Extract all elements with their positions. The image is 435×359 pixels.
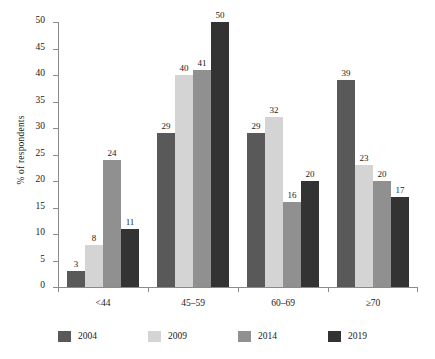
legend-item[interactable]: 2014 [238,331,328,342]
y-tick-label: 5 [40,254,45,264]
legend-item[interactable]: 2009 [148,331,238,342]
bar-group: 29321620 [247,22,319,287]
x-tick [328,287,329,292]
x-tick [148,287,149,292]
legend-label: 2019 [348,331,367,341]
legend-label: 2004 [78,331,97,341]
bar-value-label: 20 [378,169,387,179]
bar: 32 [265,117,283,287]
legend-item[interactable]: 2004 [58,331,148,342]
category-label: 60–69 [271,298,295,308]
y-axis-title-text: % of respondents [16,115,26,184]
category-label: <44 [96,298,111,308]
y-axis-line [58,22,59,287]
bar-group: 382411 [67,22,139,287]
y-tick: 50 [53,22,58,23]
bar: 8 [85,245,103,287]
bar-value-label: 3 [74,259,79,269]
bar: 20 [373,181,391,287]
legend-swatch [58,331,71,342]
bar-value-label: 11 [126,217,135,227]
bar-value-label: 40 [180,63,189,73]
bar-value-label: 29 [162,121,171,131]
y-tick: 10 [53,234,58,235]
y-tick: 15 [53,208,58,209]
x-tick [417,287,418,292]
y-tick: 45 [53,49,58,50]
y-tick-label: 35 [36,95,46,105]
y-tick: 30 [53,128,58,129]
bar: 29 [157,133,175,287]
y-tick: 5 [53,261,58,262]
bar-value-label: 20 [306,169,315,179]
y-tick: 40 [53,75,58,76]
y-tick: 20 [53,181,58,182]
legend-swatch [328,331,341,342]
y-tick-label: 20 [36,174,46,184]
bar: 41 [193,70,211,287]
bar: 3 [67,271,85,287]
bar-value-label: 29 [252,121,261,131]
y-tick-label: 50 [36,15,46,25]
y-tick-label: 15 [36,201,46,211]
bar: 40 [175,75,193,287]
y-tick-label: 10 [36,227,46,237]
bar-value-label: 8 [92,233,97,243]
plot-area: 05101520253035404550 3824112940415029321… [58,22,418,287]
bar: 29 [247,133,265,287]
bar: 20 [301,181,319,287]
legend-item[interactable]: 2019 [328,331,418,342]
bar-value-label: 50 [216,10,225,20]
bar: 39 [337,80,355,287]
y-tick-label: 0 [40,280,45,290]
legend-swatch [238,331,251,342]
y-tick-label: 45 [36,42,46,52]
bar-value-label: 23 [360,153,369,163]
legend-swatch [148,331,161,342]
legend-label: 2014 [258,331,277,341]
legend-label: 2009 [168,331,187,341]
bar-chart-figure: % of respondents 05101520253035404550 38… [0,0,435,359]
y-tick-label: 30 [36,121,46,131]
bar: 11 [121,229,139,287]
bar-value-label: 41 [198,58,207,68]
x-tick [58,287,59,292]
bar: 16 [283,202,301,287]
category-label: ≥70 [366,298,381,308]
bar-value-label: 17 [396,185,405,195]
bar-value-label: 32 [270,105,279,115]
bar: 50 [211,22,229,287]
bar-group: 39232017 [337,22,409,287]
bar-value-label: 24 [108,148,117,158]
bar: 17 [391,197,409,287]
chart-legend: 2004200920142019 [58,328,418,344]
x-tick [238,287,239,292]
y-tick: 25 [53,155,58,156]
category-label: 45–59 [181,298,205,308]
bar: 23 [355,165,373,287]
y-tick-label: 25 [36,148,46,158]
bar-value-label: 39 [342,68,351,78]
bar-value-label: 16 [288,190,297,200]
y-tick: 35 [53,102,58,103]
y-tick-label: 40 [36,68,46,78]
y-axis-title: % of respondents [10,0,32,300]
bar: 24 [103,160,121,287]
bar-group: 29404150 [157,22,229,287]
